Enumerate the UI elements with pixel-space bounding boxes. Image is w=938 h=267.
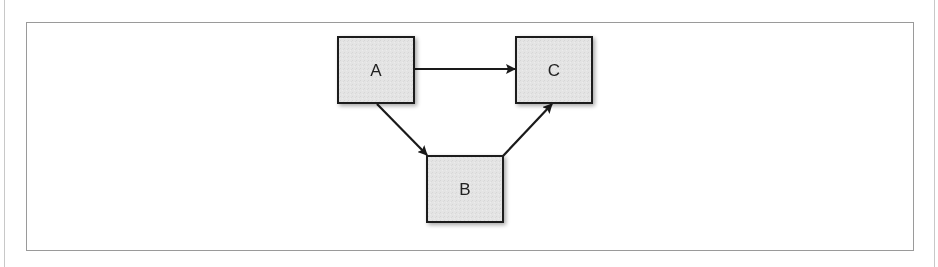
edge-b-to-c	[503, 104, 552, 156]
node-b: B	[427, 156, 503, 222]
edge-a-to-b	[377, 104, 427, 155]
node-c-label: C	[548, 61, 560, 80]
node-a-label: A	[370, 61, 382, 80]
node-c: C	[516, 37, 592, 103]
node-a: A	[338, 37, 414, 103]
node-b-label: B	[459, 180, 470, 199]
diagram-canvas: A B C	[0, 0, 938, 267]
